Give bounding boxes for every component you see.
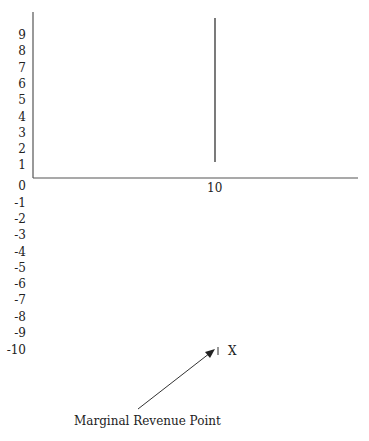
- y-tick-label: -8: [0, 311, 26, 323]
- y-tick-label: 1: [0, 159, 26, 171]
- y-tick-label: 9: [0, 29, 26, 41]
- diagram-canvas: [0, 0, 369, 441]
- y-tick-label: -2: [0, 213, 26, 225]
- y-tick-label: -4: [0, 246, 26, 258]
- y-tick-label: 2: [0, 143, 26, 155]
- y-tick-label: -6: [0, 278, 26, 290]
- annotation-label: Marginal Revenue Point: [74, 414, 221, 428]
- point-label: X: [228, 344, 237, 358]
- y-tick-label: 3: [0, 127, 26, 139]
- y-tick-label: 8: [0, 45, 26, 57]
- y-tick-label: -3: [0, 229, 26, 241]
- x-tick-label: 10: [207, 181, 222, 195]
- arrowhead-icon: [205, 349, 215, 358]
- y-tick-label: 6: [0, 78, 26, 90]
- y-tick-label: -7: [0, 294, 26, 306]
- y-tick-label: 7: [0, 62, 26, 74]
- y-tick-label: -10: [0, 344, 26, 356]
- y-tick-label: 5: [0, 94, 26, 106]
- annotation-arrow: [138, 353, 210, 409]
- y-tick-label: 4: [0, 111, 26, 123]
- y-tick-label: -1: [0, 197, 26, 209]
- y-tick-label: -9: [0, 327, 26, 339]
- y-tick-label: -5: [0, 262, 26, 274]
- y-tick-label: 0: [0, 180, 26, 192]
